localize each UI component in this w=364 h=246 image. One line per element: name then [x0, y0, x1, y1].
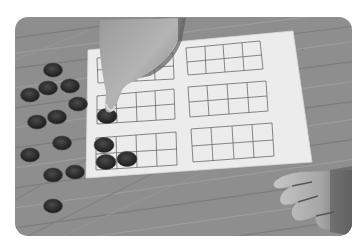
- photo-frame: [0, 0, 364, 246]
- counter: [28, 115, 47, 129]
- activity-photo: [0, 0, 364, 246]
- counter: [96, 155, 116, 170]
- counter: [39, 81, 58, 95]
- counter: [66, 165, 85, 179]
- counter: [117, 152, 137, 167]
- counter: [21, 148, 40, 162]
- counter: [44, 168, 63, 182]
- counter: [69, 97, 88, 111]
- counter: [53, 136, 72, 150]
- counter: [44, 199, 63, 213]
- counter: [61, 79, 80, 93]
- counter: [94, 138, 114, 153]
- counter: [48, 110, 67, 124]
- counter: [44, 63, 63, 77]
- counter: [21, 88, 40, 102]
